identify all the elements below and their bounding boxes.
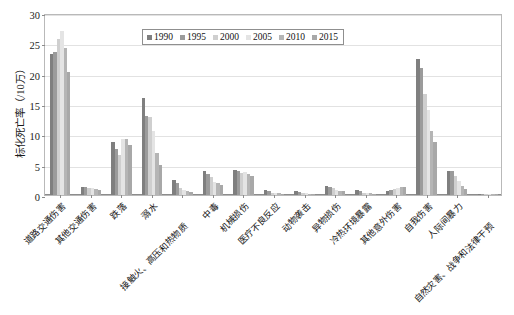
y-tick-label: 30 (30, 10, 41, 21)
legend-item-2000[interactable]: 2000 (213, 32, 239, 42)
x-label-4: 接触火、高压和热物质 (118, 220, 191, 293)
y-tick-label: 20 (30, 70, 41, 81)
legend-label: 1995 (187, 32, 206, 42)
legend-swatch-icon (213, 35, 218, 40)
bar-2015[interactable] (98, 190, 101, 195)
x-label-2: 跌落 (108, 200, 130, 222)
legend-swatch-icon (180, 35, 185, 40)
y-tick-label: 25 (30, 40, 41, 51)
legend-label: 2015 (319, 32, 338, 42)
bar-2015[interactable] (159, 165, 162, 195)
legend-swatch-icon (246, 35, 251, 40)
bar-2015[interactable] (433, 142, 436, 195)
bar-2015[interactable] (67, 72, 70, 195)
y-axis-title: 标化死亡率（/10万） (12, 64, 27, 157)
legend-item-1990[interactable]: 1990 (147, 32, 173, 42)
bar-2015[interactable] (311, 194, 314, 195)
legend-item-2010[interactable]: 2010 (279, 32, 305, 42)
bar-group (477, 15, 498, 195)
bar-group (111, 15, 132, 195)
bar-2015[interactable] (281, 194, 284, 195)
y-tick-label: 10 (30, 131, 41, 142)
legend-swatch-icon (279, 35, 284, 40)
legend-label: 1990 (154, 32, 173, 42)
bar-2015[interactable] (220, 185, 223, 195)
legend-label: 2005 (253, 32, 272, 42)
legend-swatch-icon (312, 35, 317, 40)
legend-label: 2000 (220, 32, 239, 42)
legend-item-2005[interactable]: 2005 (246, 32, 272, 42)
bar-2015[interactable] (128, 145, 131, 195)
bar-chart: 051015202530 标化死亡率（/10万） 199019952000200… (0, 0, 514, 315)
bar-2015[interactable] (464, 189, 467, 195)
legend-swatch-icon (147, 35, 152, 40)
bar-2015[interactable] (495, 194, 498, 195)
bar-2015[interactable] (372, 194, 375, 195)
bar-group (355, 15, 376, 195)
x-label-5: 中毒 (199, 200, 221, 222)
bar-2015[interactable] (250, 176, 253, 195)
x-label-14: 自然灾害、战争和法律干预 (410, 220, 496, 306)
y-tick-label: 5 (35, 161, 40, 172)
x-label-3: 溺水 (138, 200, 160, 222)
bar-2015[interactable] (342, 191, 345, 195)
bar-2015[interactable] (403, 187, 406, 195)
bar-group (416, 15, 437, 195)
legend-label: 2010 (286, 32, 305, 42)
bar-group (50, 15, 71, 195)
bar-2015[interactable] (189, 192, 192, 195)
y-tick-label: 15 (30, 101, 41, 112)
bar-group (447, 15, 468, 195)
bar-group (80, 15, 101, 195)
legend-item-2015[interactable]: 2015 (312, 32, 338, 42)
x-label-8: 动物袭击 (278, 200, 313, 235)
x-axis-labels: 道路交通伤害其他交通伤害跌落溺水接触火、高压和热物质中毒机械损伤医疗不良反应动物… (0, 198, 514, 315)
bar-group (386, 15, 407, 195)
legend-item-1995[interactable]: 1995 (180, 32, 206, 42)
chart-legend: 199019952000200520102015 (142, 29, 344, 45)
